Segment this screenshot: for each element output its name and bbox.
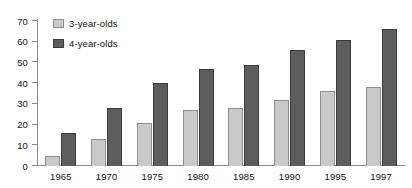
x-axis-tick-label: 1970 [84, 171, 130, 182]
y-axis-tick-label: 40 [17, 77, 28, 88]
bar-group [313, 14, 359, 166]
y-axis-tick: 60 [32, 41, 37, 42]
bar-group [267, 14, 313, 166]
y-axis-tick-label: 60 [17, 36, 28, 47]
bar-3-year-olds-1980 [183, 110, 198, 166]
y-axis-tick-label: 50 [17, 56, 28, 67]
bar-3-year-olds-1985 [228, 108, 243, 166]
bar-group [130, 14, 176, 166]
bar-4-year-olds-1995 [336, 40, 351, 166]
bar-4-year-olds-1985 [244, 65, 259, 167]
bar-3-year-olds-1965 [45, 156, 60, 166]
y-axis-tick: 10 [32, 144, 37, 145]
y-axis-tick-label: 20 [17, 119, 28, 130]
bar-4-year-olds-1990 [290, 50, 305, 166]
x-axis-tick-label: 1995 [313, 171, 359, 182]
bar-group [221, 14, 267, 166]
y-axis-tick: 70 [32, 20, 37, 21]
bar-4-year-olds-1997 [382, 29, 397, 166]
y-axis-tick-label: 10 [17, 139, 28, 150]
bar-4-year-olds-1970 [107, 108, 122, 166]
bar-3-year-olds-1995 [320, 91, 335, 166]
bar-group [358, 14, 404, 166]
x-axis-tick-label: 1990 [267, 171, 313, 182]
bar-3-year-olds-1997 [366, 87, 381, 166]
bar-3-year-olds-1975 [137, 123, 152, 167]
x-axis-tick-label: 1985 [221, 171, 267, 182]
y-axis-tick: 50 [32, 61, 37, 62]
bar-4-year-olds-1965 [61, 133, 76, 166]
x-axis-tick-label: 1997 [358, 171, 404, 182]
y-axis-tick: 0 [32, 165, 37, 166]
bar-chart: 706050403020100 3-year-olds 4-year-olds … [0, 0, 412, 188]
bar-group [175, 14, 221, 166]
y-axis-tick: 20 [32, 124, 37, 125]
y-axis-tick-label: 30 [17, 98, 28, 109]
bar-4-year-olds-1975 [153, 83, 168, 166]
x-axis-tick-label: 1965 [38, 171, 84, 182]
bar-4-year-olds-1980 [199, 69, 214, 166]
y-axis-tick: 40 [32, 82, 37, 83]
y-axis-tick: 30 [32, 103, 37, 104]
bar-group [84, 14, 130, 166]
bar-group [38, 14, 84, 166]
bar-3-year-olds-1970 [91, 139, 106, 166]
x-axis-tick-label: 1980 [175, 171, 221, 182]
plot-area [38, 14, 404, 166]
bar-3-year-olds-1990 [274, 100, 289, 166]
y-axis-tick-label: 70 [17, 15, 28, 26]
y-axis-tick-label: 0 [23, 160, 28, 171]
x-axis-tick-label: 1975 [130, 171, 176, 182]
